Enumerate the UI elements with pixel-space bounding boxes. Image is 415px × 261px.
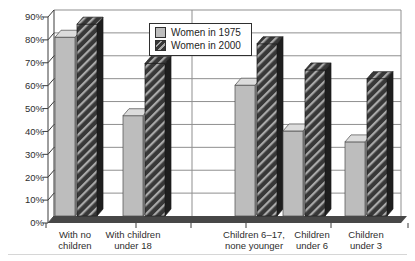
bar-2000-4 (367, 72, 393, 216)
bar-2000-3 (305, 63, 331, 216)
category-label: under 18 (114, 240, 152, 251)
y-tick-label: 0% (30, 217, 44, 228)
y-tick-label: 70% (25, 57, 45, 68)
bar-2000-2 (257, 37, 283, 216)
y-tick-label: 40% (25, 126, 45, 137)
category-label: With children (106, 229, 161, 240)
page-rule-divider (8, 254, 407, 255)
bar-chart-figure: 0%10%20%30%40%50%60%70%80%90%With nochil… (0, 0, 415, 261)
legend-entry-1975: Women in 1975 (155, 27, 241, 38)
y-tick-label: 60% (25, 80, 45, 91)
y-tick-label: 30% (25, 149, 45, 160)
category-label: under 6 (296, 240, 328, 251)
y-tick-label: 90% (25, 11, 45, 22)
y-tick-label: 50% (25, 103, 45, 114)
x-axis-ticks (46, 223, 408, 228)
category-label: under 3 (350, 240, 382, 251)
y-tick-label: 10% (25, 194, 45, 205)
floor-3d (48, 216, 407, 223)
category-label: children (58, 240, 91, 251)
category-label: none younger (225, 240, 283, 251)
category-label: Children 6–17, (223, 229, 285, 240)
category-label: Children (294, 229, 329, 240)
bar-2000-0 (77, 17, 103, 216)
y-tick-label: 20% (25, 172, 45, 183)
y-axis (43, 10, 55, 223)
legend-label-2000: Women in 2000 (171, 40, 241, 51)
y-tick-label: 80% (25, 34, 45, 45)
x-axis-labels: With nochildrenWith childrenunder 18Chil… (58, 229, 383, 252)
legend-entry-2000: Women in 2000 (155, 40, 241, 51)
bar-2000-1 (145, 56, 171, 216)
legend: Women in 1975 Women in 2000 (149, 23, 252, 56)
legend-swatch-2000-icon (155, 40, 166, 51)
category-label: Children (348, 229, 383, 240)
y-axis-labels: 0%10%20%30%40%50%60%70%80%90% (25, 11, 45, 228)
legend-label-1975: Women in 1975 (171, 27, 241, 38)
category-label: With no (59, 229, 91, 240)
legend-swatch-1975-icon (155, 27, 166, 38)
